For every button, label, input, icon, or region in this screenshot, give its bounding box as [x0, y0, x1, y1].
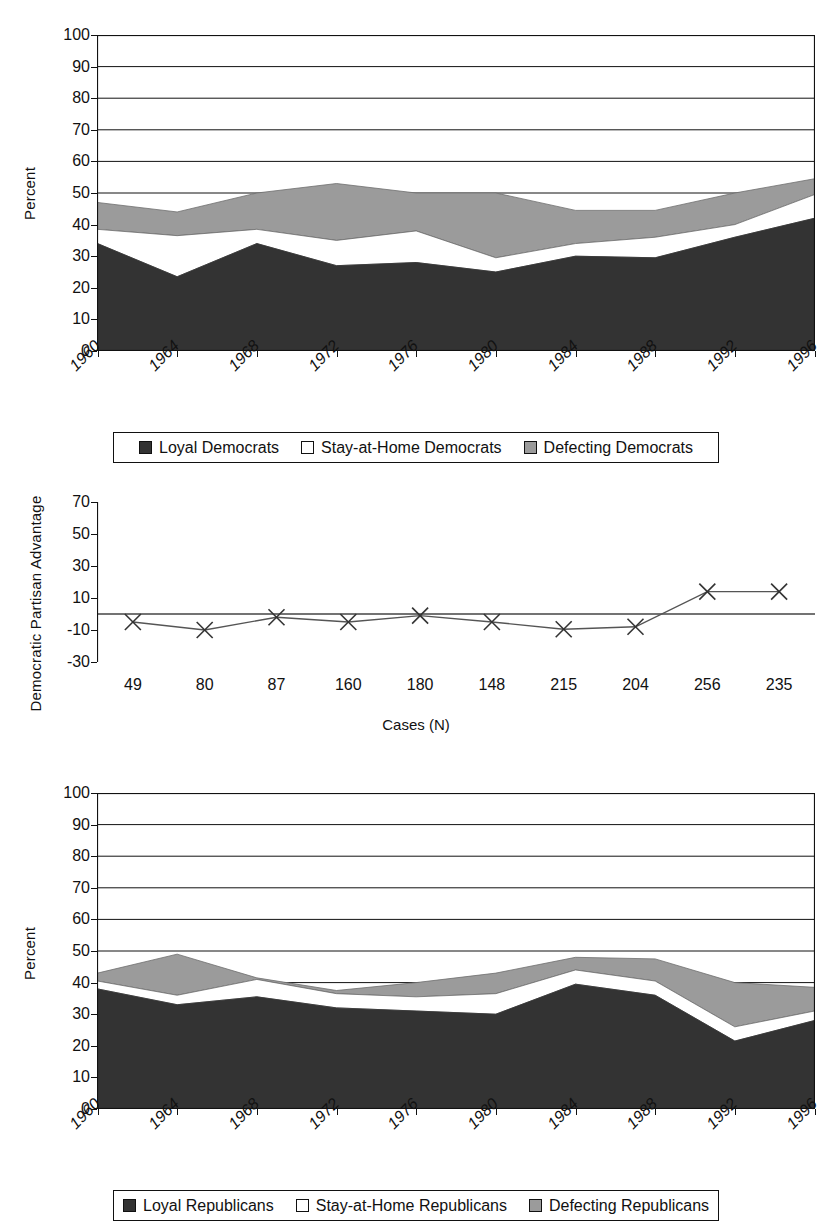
legend-swatch-defecting-republicans: [529, 1199, 542, 1212]
y-tick-label: 30: [0, 1006, 90, 1022]
x-tick-label: 215: [550, 676, 577, 694]
chart1-legend: Loyal Democrats Stay-at-Home Democrats D…: [113, 432, 719, 463]
y-tick-label: 70: [0, 122, 90, 138]
legend-item-loyal-republicans: Loyal Republicans: [123, 1197, 274, 1215]
legend-swatch-loyal-democrats: [139, 441, 152, 454]
legend-swatch-defecting-democrats: [524, 441, 537, 454]
y-tick-label: -30: [0, 654, 90, 670]
y-tick-label: 100: [0, 27, 90, 43]
x-tick-label: 148: [479, 676, 506, 694]
y-tick-label: 70: [0, 880, 90, 896]
figure-page: Percent 0102030405060708090100 196019641…: [0, 0, 832, 1228]
y-tick-label: 80: [0, 848, 90, 864]
y-tick-label: 90: [0, 817, 90, 833]
y-tick-label: 40: [0, 975, 90, 991]
chart3-svg: [97, 793, 815, 1109]
y-tick-label: 80: [0, 90, 90, 106]
y-tick-label: 60: [0, 911, 90, 927]
legend-swatch-stay-at-home-democrats: [301, 441, 314, 454]
chart2-svg: [97, 502, 815, 662]
y-tick-label: 20: [0, 280, 90, 296]
x-tick-label: 49: [124, 676, 142, 694]
y-tick-label: 60: [0, 153, 90, 169]
legend-label-defecting-republicans: Defecting Republicans: [549, 1197, 709, 1215]
x-tick-label: 256: [694, 676, 721, 694]
y-tick-label: 100: [0, 785, 90, 801]
legend-label-loyal-republicans: Loyal Republicans: [143, 1197, 274, 1215]
chart-republicans: Percent 0102030405060708090100 196019641…: [0, 770, 832, 1228]
chart-democrats: Percent 0102030405060708090100 196019641…: [0, 0, 832, 470]
chart2-plot-area: [97, 502, 815, 662]
y-tick-label: 70: [0, 494, 90, 510]
y-tick-mark: [91, 662, 97, 663]
legend-swatch-loyal-republicans: [123, 1199, 136, 1212]
legend-label-loyal-democrats: Loyal Democrats: [159, 439, 279, 457]
y-tick-label: 30: [0, 248, 90, 264]
y-tick-label: 20: [0, 1038, 90, 1054]
chart3-plot-area: [97, 793, 815, 1109]
legend-label-defecting-democrats: Defecting Democrats: [544, 439, 693, 457]
legend-swatch-stay-at-home-republicans: [296, 1199, 309, 1212]
chart1-plot-area: [97, 35, 815, 351]
y-tick-label: 10: [0, 1069, 90, 1085]
x-tick-label: 160: [335, 676, 362, 694]
data-line-partisan-advantage: [133, 592, 779, 630]
y-tick-label: 40: [0, 217, 90, 233]
x-tick-label: 204: [622, 676, 649, 694]
x-tick-label: 235: [766, 676, 793, 694]
legend-label-stay-at-home-democrats: Stay-at-Home Democrats: [321, 439, 502, 457]
chart-partisan-advantage: Democratic Partisan Advantage -30-101030…: [0, 480, 832, 760]
y-tick-label: -10: [0, 622, 90, 638]
y-tick-label: 50: [0, 943, 90, 959]
y-tick-label: 10: [0, 590, 90, 606]
x-tick-label: 87: [268, 676, 286, 694]
y-tick-label: 50: [0, 526, 90, 542]
legend-item-defecting-republicans: Defecting Republicans: [529, 1197, 709, 1215]
x-tick-label: 80: [196, 676, 214, 694]
legend-item-loyal-democrats: Loyal Democrats: [139, 439, 279, 457]
chart1-svg: [97, 35, 815, 351]
chart2-x-axis-title: Cases (N): [0, 716, 832, 733]
y-tick-label: 90: [0, 59, 90, 75]
legend-label-stay-at-home-republicans: Stay-at-Home Republicans: [316, 1197, 507, 1215]
y-tick-label: 50: [0, 185, 90, 201]
legend-item-stay-at-home-democrats: Stay-at-Home Democrats: [301, 439, 502, 457]
y-tick-label: 10: [0, 311, 90, 327]
legend-item-defecting-democrats: Defecting Democrats: [524, 439, 693, 457]
x-tick-label: 180: [407, 676, 434, 694]
legend-item-stay-at-home-republicans: Stay-at-Home Republicans: [296, 1197, 507, 1215]
y-tick-label: 30: [0, 558, 90, 574]
chart3-legend: Loyal Republicans Stay-at-Home Republica…: [113, 1190, 719, 1221]
